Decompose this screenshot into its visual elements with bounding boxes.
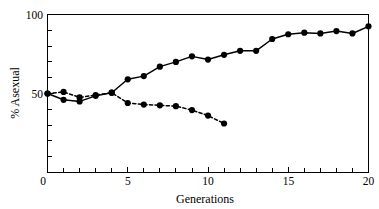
rising-population-point: [189, 53, 195, 59]
declining-population-point: [60, 89, 66, 95]
rising-population-point: [365, 23, 371, 29]
rising-population-point: [349, 30, 355, 36]
rising-population-point: [109, 90, 115, 96]
rising-population-point: [301, 30, 307, 36]
x-axis-label-20: 20: [363, 175, 375, 187]
x-axis-label-10: 10: [202, 175, 214, 187]
series-declining-line: [48, 92, 225, 124]
rising-population-point: [221, 52, 227, 58]
rising-population-point: [269, 36, 275, 42]
rising-population-point: [125, 76, 131, 82]
rising-population-line: [48, 26, 369, 101]
declining-population-point: [141, 101, 147, 107]
declining-population-point: [189, 107, 195, 113]
rising-population-point: [93, 93, 99, 99]
line-chart-canvas: 100 50 0 5 10 15 20 Generations % Asexua…: [0, 0, 379, 209]
x-axis-label-5: 5: [125, 175, 131, 187]
x-axis-ticks: [48, 167, 369, 173]
chart-figure: 100 50 0 5 10 15 20 Generations % Asexua…: [0, 0, 379, 209]
rising-population-point: [77, 98, 83, 104]
x-axis-title: Generations: [176, 192, 234, 206]
rising-population-point: [317, 30, 323, 36]
declining-population-point: [221, 120, 227, 126]
rising-population-point: [44, 90, 50, 96]
declining-population-line: [48, 92, 225, 124]
y-axis-label-0: 0: [40, 175, 46, 187]
y-axis-label-50: 50: [32, 88, 44, 100]
declining-population-point: [157, 102, 163, 108]
rising-population-point: [237, 48, 243, 54]
rising-population-point: [157, 64, 163, 70]
rising-population-point: [173, 59, 179, 65]
rising-population-point: [141, 73, 147, 79]
y-axis-label-100: 100: [26, 9, 44, 21]
rising-population-markers: [44, 23, 371, 104]
y-axis-title: % Asexual: [8, 67, 22, 119]
series-rising-line: [48, 26, 369, 101]
rising-population-point: [253, 48, 259, 54]
rising-population-point: [60, 97, 66, 103]
x-axis-label-15: 15: [283, 175, 295, 187]
declining-population-point: [173, 103, 179, 109]
rising-population-point: [285, 31, 291, 37]
declining-population-point: [125, 100, 131, 106]
declining-population-point: [205, 113, 211, 119]
rising-population-point: [333, 28, 339, 34]
rising-population-point: [205, 56, 211, 62]
